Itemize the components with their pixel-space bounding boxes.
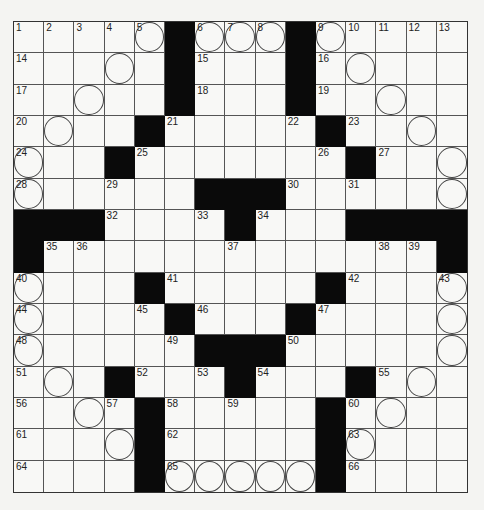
grid-cell[interactable] (44, 273, 74, 304)
grid-cell[interactable] (105, 335, 135, 366)
grid-cell[interactable]: 39 (407, 241, 437, 272)
grid-cell[interactable]: 10 (346, 22, 376, 53)
grid-cell[interactable] (407, 398, 437, 429)
grid-cell[interactable] (44, 53, 74, 84)
grid-cell[interactable]: 17 (14, 85, 44, 116)
grid-cell[interactable] (316, 367, 346, 398)
grid-cell[interactable]: 2 (44, 22, 74, 53)
grid-cell[interactable]: 8 (256, 22, 286, 53)
grid-cell[interactable]: 27 (376, 147, 406, 178)
grid-cell[interactable]: 56 (14, 398, 44, 429)
grid-cell[interactable] (376, 53, 406, 84)
grid-cell[interactable] (74, 179, 104, 210)
grid-cell[interactable] (346, 53, 376, 84)
grid-cell[interactable] (195, 241, 225, 272)
grid-cell[interactable]: 40 (14, 273, 44, 304)
grid-cell[interactable] (225, 53, 255, 84)
grid-cell[interactable] (105, 85, 135, 116)
grid-cell[interactable] (195, 429, 225, 460)
grid-cell[interactable] (135, 335, 165, 366)
grid-cell[interactable]: 31 (346, 179, 376, 210)
grid-cell[interactable]: 12 (407, 22, 437, 53)
grid-cell[interactable] (256, 53, 286, 84)
grid-cell[interactable] (74, 147, 104, 178)
grid-cell[interactable]: 23 (346, 116, 376, 147)
grid-cell[interactable] (376, 461, 406, 492)
grid-cell[interactable] (105, 273, 135, 304)
grid-cell[interactable] (105, 116, 135, 147)
grid-cell[interactable] (105, 304, 135, 335)
grid-cell[interactable] (165, 241, 195, 272)
grid-cell[interactable] (74, 85, 104, 116)
grid-cell[interactable] (376, 398, 406, 429)
grid-cell[interactable] (165, 367, 195, 398)
grid-cell[interactable]: 59 (225, 398, 255, 429)
grid-cell[interactable]: 1 (14, 22, 44, 53)
grid-cell[interactable] (407, 85, 437, 116)
grid-cell[interactable] (376, 273, 406, 304)
grid-cell[interactable] (195, 398, 225, 429)
grid-cell[interactable] (316, 335, 346, 366)
grid-cell[interactable] (225, 273, 255, 304)
grid-cell[interactable] (225, 429, 255, 460)
grid-cell[interactable] (195, 273, 225, 304)
grid-cell[interactable] (437, 116, 467, 147)
grid-cell[interactable]: 22 (286, 116, 316, 147)
grid-cell[interactable]: 54 (256, 367, 286, 398)
grid-cell[interactable] (437, 179, 467, 210)
grid-cell[interactable]: 63 (346, 429, 376, 460)
grid-cell[interactable] (44, 85, 74, 116)
grid-cell[interactable] (165, 179, 195, 210)
grid-cell[interactable] (437, 53, 467, 84)
grid-cell[interactable] (407, 116, 437, 147)
grid-cell[interactable]: 57 (105, 398, 135, 429)
grid-cell[interactable]: 4 (105, 22, 135, 53)
grid-cell[interactable] (286, 398, 316, 429)
grid-cell[interactable]: 65 (165, 461, 195, 492)
grid-cell[interactable]: 18 (195, 85, 225, 116)
grid-cell[interactable] (407, 53, 437, 84)
grid-cell[interactable]: 61 (14, 429, 44, 460)
grid-cell[interactable] (225, 116, 255, 147)
grid-cell[interactable] (74, 398, 104, 429)
grid-cell[interactable]: 60 (346, 398, 376, 429)
grid-cell[interactable] (44, 429, 74, 460)
grid-cell[interactable] (376, 429, 406, 460)
grid-cell[interactable] (316, 241, 346, 272)
grid-cell[interactable]: 5 (135, 22, 165, 53)
grid-cell[interactable] (225, 85, 255, 116)
grid-cell[interactable] (44, 335, 74, 366)
grid-cell[interactable]: 13 (437, 22, 467, 53)
grid-cell[interactable] (135, 85, 165, 116)
grid-cell[interactable] (105, 53, 135, 84)
grid-cell[interactable]: 51 (14, 367, 44, 398)
grid-cell[interactable] (437, 461, 467, 492)
grid-cell[interactable]: 44 (14, 304, 44, 335)
grid-cell[interactable] (256, 116, 286, 147)
grid-cell[interactable]: 25 (135, 147, 165, 178)
grid-cell[interactable]: 52 (135, 367, 165, 398)
grid-cell[interactable] (74, 429, 104, 460)
grid-cell[interactable]: 30 (286, 179, 316, 210)
grid-cell[interactable] (316, 179, 346, 210)
grid-cell[interactable]: 16 (316, 53, 346, 84)
grid-cell[interactable]: 46 (195, 304, 225, 335)
grid-cell[interactable] (44, 179, 74, 210)
grid-cell[interactable]: 28 (14, 179, 44, 210)
grid-cell[interactable] (407, 147, 437, 178)
grid-cell[interactable] (44, 367, 74, 398)
grid-cell[interactable] (286, 429, 316, 460)
grid-cell[interactable] (376, 335, 406, 366)
grid-cell[interactable]: 20 (14, 116, 44, 147)
grid-cell[interactable]: 48 (14, 335, 44, 366)
grid-cell[interactable] (74, 367, 104, 398)
grid-cell[interactable]: 33 (195, 210, 225, 241)
grid-cell[interactable] (256, 147, 286, 178)
grid-cell[interactable]: 58 (165, 398, 195, 429)
grid-cell[interactable] (346, 304, 376, 335)
grid-cell[interactable] (74, 116, 104, 147)
grid-cell[interactable] (407, 273, 437, 304)
grid-cell[interactable]: 3 (74, 22, 104, 53)
grid-cell[interactable] (165, 147, 195, 178)
grid-cell[interactable] (286, 461, 316, 492)
